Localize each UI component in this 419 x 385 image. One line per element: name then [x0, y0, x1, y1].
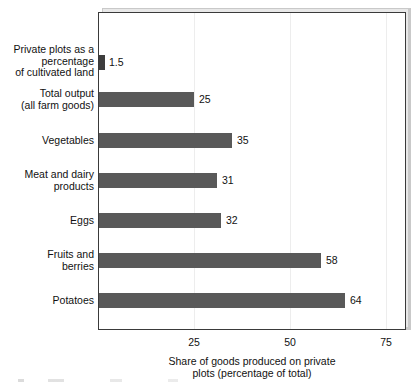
bar-private-plots-percentage [99, 55, 105, 70]
category-label-total-output: Total output (all farm goods) [0, 88, 94, 111]
bar-value-fruits-and-berries: 58 [326, 253, 338, 268]
bar-value-eggs: 32 [226, 213, 238, 228]
bar-meat-and-dairy-products [99, 173, 217, 188]
xtick-label-50: 50 [270, 336, 310, 348]
bar-value-private-plots-percentage: 1.5 [109, 55, 124, 70]
bar-value-meat-and-dairy-products: 31 [222, 173, 234, 188]
category-label-fruits-and-berries: Fruits and berries [0, 249, 94, 272]
category-label-vegetables: Vegetables [0, 135, 94, 147]
scan-edge-artifact [18, 379, 218, 382]
bar-value-potatoes: 64 [350, 293, 362, 308]
category-label-meat-and-dairy-products: Meat and dairy products [0, 169, 94, 192]
category-label-private-plots-percentage: Private plots as a percentage of cultiva… [0, 44, 94, 79]
plot-area [98, 12, 406, 330]
gridline-75 [386, 13, 387, 329]
bar-value-total-output: 25 [199, 92, 211, 107]
gridline-25 [194, 13, 195, 329]
category-label-potatoes: Potatoes [0, 295, 94, 307]
bar-fruits-and-berries [99, 253, 321, 268]
bar-eggs [99, 213, 221, 228]
category-label-eggs: Eggs [0, 215, 94, 227]
bar-potatoes [99, 293, 345, 308]
xtick-label-75: 75 [366, 336, 406, 348]
xtick-label-25: 25 [174, 336, 214, 348]
bar-total-output [99, 92, 194, 107]
bar-vegetables [99, 133, 232, 148]
bar-value-vegetables: 35 [237, 133, 249, 148]
gridline-50 [290, 13, 291, 329]
bar-chart-figure: 1.5 25 35 31 32 58 64 Private plots as a… [0, 0, 419, 385]
x-axis-title: Share of goods produced on private plots… [98, 355, 406, 379]
